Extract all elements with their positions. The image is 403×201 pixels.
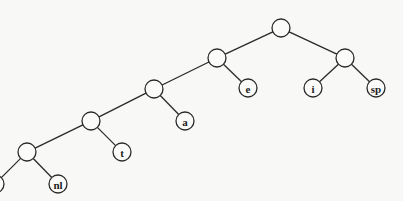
node-label: sp xyxy=(371,83,381,95)
tree-edge xyxy=(33,158,51,177)
internal-node xyxy=(208,49,226,67)
leaf-node-e: e xyxy=(239,79,257,97)
leaf-node-i: i xyxy=(304,79,322,97)
tree-edge xyxy=(162,62,209,85)
internal-node xyxy=(82,112,100,130)
tree-edges xyxy=(1,32,369,178)
tree-edge xyxy=(223,64,241,81)
leaf-node-sp: sp xyxy=(367,79,385,97)
node-circle xyxy=(208,49,226,67)
tree-edge xyxy=(99,93,146,117)
tree-svg: eispatnl xyxy=(0,0,403,201)
node-label: t xyxy=(120,147,124,159)
node-circle xyxy=(0,175,4,193)
internal-node xyxy=(336,49,354,67)
internal-node xyxy=(0,175,4,193)
tree-diagram: eispatnl xyxy=(0,0,403,201)
tree-edge xyxy=(225,32,273,54)
tree-edge xyxy=(289,32,337,54)
tree-edge xyxy=(320,64,339,82)
tree-nodes: eispatnl xyxy=(0,19,385,193)
node-circle xyxy=(272,19,290,37)
node-label: nl xyxy=(53,179,62,191)
leaf-node-t: t xyxy=(113,143,131,161)
node-label: a xyxy=(182,116,188,128)
internal-node xyxy=(18,143,36,161)
tree-edge xyxy=(35,125,83,148)
internal-node xyxy=(272,19,290,37)
node-circle xyxy=(145,80,163,98)
node-circle xyxy=(82,112,100,130)
node-circle xyxy=(18,143,36,161)
tree-edge xyxy=(97,127,115,145)
node-label: i xyxy=(311,83,314,95)
leaf-node-nl: nl xyxy=(49,175,67,193)
tree-edge xyxy=(351,64,369,81)
tree-edge xyxy=(1,158,20,177)
node-label: e xyxy=(246,83,251,95)
internal-node xyxy=(145,80,163,98)
node-circle xyxy=(336,49,354,67)
leaf-node-a: a xyxy=(176,112,194,130)
tree-edge xyxy=(160,95,178,114)
